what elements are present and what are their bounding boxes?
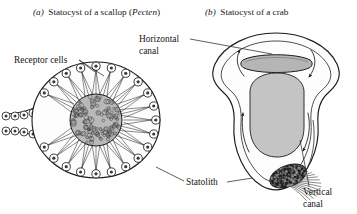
receptor-cell xyxy=(40,143,48,151)
receptor-cell xyxy=(152,116,160,124)
receptor-cell xyxy=(134,78,142,86)
label-receptor-cells: Receptor cells xyxy=(14,55,68,65)
label-statolith: Statolith xyxy=(186,177,218,187)
label-horizontal-canal-line1: Horizontal xyxy=(139,34,179,44)
receptor-cell xyxy=(62,163,70,171)
receptor-cell xyxy=(144,89,152,97)
receptor-cell xyxy=(50,78,58,86)
label-horizontal-canal-line2: canal xyxy=(139,46,159,56)
panel-a-caption: (a) Statocyst of a scallop (Pecten) xyxy=(33,7,160,17)
receptor-cell xyxy=(77,168,85,176)
receptor-cell xyxy=(107,64,115,72)
receptor-cell xyxy=(62,69,70,77)
receptor-cell xyxy=(122,69,130,77)
receptor-cell xyxy=(107,168,115,176)
crab-inner-sac xyxy=(250,73,304,157)
receptor-cell xyxy=(150,102,158,110)
receptor-cell xyxy=(50,154,58,162)
figure-root: (a) Statocyst of a scallop (Pecten) (b) … xyxy=(0,0,357,214)
panel-a-letter: (a) xyxy=(33,7,44,17)
receptor-cell xyxy=(92,170,100,178)
receptor-cell xyxy=(77,64,85,72)
panel-b-caption: (b) Statocyst of a crab xyxy=(205,7,289,17)
receptor-cell xyxy=(144,143,152,151)
receptor-cell xyxy=(40,89,48,97)
receptor-cell xyxy=(150,130,158,138)
label-vertical-canal-line1: Vertical xyxy=(303,187,333,197)
panel-b-letter: (b) xyxy=(205,7,216,17)
label-vertical-canal-line2: canal xyxy=(303,199,323,209)
receptor-cell xyxy=(122,163,130,171)
panel-a-species: Pecten xyxy=(131,7,157,17)
receptor-cell xyxy=(134,154,142,162)
statocyst-figure: (a) Statocyst of a scallop (Pecten) (b) … xyxy=(0,0,357,214)
